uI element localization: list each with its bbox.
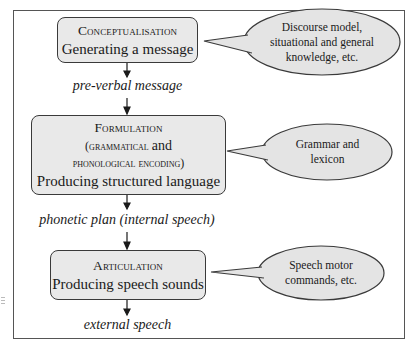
callout-line: lexicon — [270, 152, 385, 167]
callout-line: Discourse model, — [252, 20, 392, 35]
stage-subtitle-line2: phonological encoding) — [32, 155, 225, 172]
output-label-external: external speech — [57, 317, 198, 333]
callout-line: knowledge, etc. — [252, 50, 392, 65]
stage-box-formulation: Formulation (grammatical and phonologica… — [31, 115, 226, 195]
stage-title: Articulation — [51, 257, 205, 275]
callout-text-formulation: Grammar and lexicon — [270, 137, 385, 167]
output-label-phonetic: phonetic plan (internal speech) — [20, 212, 234, 228]
stage-title: Conceptualisation — [58, 22, 197, 40]
stage-description: Producing structured language — [32, 172, 225, 191]
stage-box-articulation: Articulation Producing speech sounds — [50, 250, 206, 300]
stage-title: Formulation — [32, 119, 225, 137]
callout-line: situational and general — [252, 35, 392, 50]
stage-description: Producing speech sounds — [51, 275, 205, 294]
subtitle-part: and — [152, 138, 172, 153]
subtitle-part: (grammatical — [85, 139, 149, 153]
callout-text-conceptualisation: Discourse model, situational and general… — [252, 20, 392, 65]
callout-line: Grammar and — [270, 137, 385, 152]
stage-box-conceptualisation: Conceptualisation Generating a message — [57, 17, 198, 63]
callout-line: commands, etc. — [265, 273, 377, 288]
stage-description: Generating a message — [58, 40, 197, 59]
output-label-preverbal: pre-verbal message — [57, 78, 198, 94]
callout-text-articulation: Speech motor commands, etc. — [265, 258, 377, 288]
stage-subtitle: (grammatical and — [32, 137, 225, 155]
callout-line: Speech motor — [265, 258, 377, 273]
